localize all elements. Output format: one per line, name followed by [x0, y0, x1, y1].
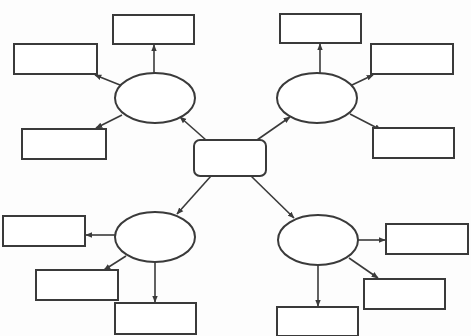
concept-map-svg: [0, 0, 471, 336]
arrow-center-to-bottom-right: [251, 176, 294, 218]
detail-box-br-right[interactable]: [386, 224, 468, 254]
detail-box-br-bottom[interactable]: [277, 307, 358, 336]
arrow-center-to-top-right: [257, 117, 290, 140]
arrow-top-left-to-tl-bottom: [96, 115, 122, 128]
detail-box-bl-left[interactable]: [3, 216, 85, 246]
detail-box-tr-top[interactable]: [280, 14, 361, 43]
detail-box-tl-left[interactable]: [14, 44, 97, 74]
detail-box-tl-bottom[interactable]: [22, 129, 106, 159]
arrow-top-left-to-tl-left: [95, 75, 120, 85]
detail-box-tr-bottom[interactable]: [373, 128, 454, 158]
arrow-center-to-top-left: [180, 117, 206, 140]
detail-box-bl-mid[interactable]: [36, 270, 118, 300]
concept-map-canvas: [0, 0, 471, 336]
arrow-top-right-to-tr-right: [352, 75, 373, 85]
detail-box-tr-right[interactable]: [371, 44, 453, 74]
detail-box-bl-bottom[interactable]: [115, 303, 196, 334]
central-topic-box[interactable]: [194, 140, 266, 176]
diagram-nodes: [3, 14, 468, 336]
arrow-bottom-left-to-bl-mid: [104, 256, 126, 270]
subtopic-ellipse-bottom-left[interactable]: [115, 212, 195, 262]
detail-box-br-mid[interactable]: [364, 279, 445, 309]
subtopic-ellipse-bottom-right[interactable]: [278, 215, 358, 265]
arrow-center-to-bottom-left: [177, 176, 211, 214]
detail-box-tl-top[interactable]: [113, 15, 194, 44]
subtopic-ellipse-top-right[interactable]: [277, 73, 357, 123]
arrow-bottom-right-to-br-mid: [349, 258, 378, 278]
subtopic-ellipse-top-left[interactable]: [115, 73, 195, 123]
